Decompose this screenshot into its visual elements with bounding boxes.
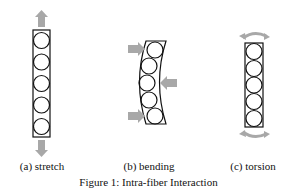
twist-arrow-bottom-icon	[243, 132, 266, 137]
panel-label-stretch: (a) stretch	[20, 160, 64, 172]
panel-torsion	[239, 33, 270, 138]
panel-label-bending: (b) bending	[123, 160, 174, 172]
panel-label-torsion: (c) torsion	[230, 160, 276, 172]
push-arrow-left-icon	[160, 76, 177, 90]
arrow-down-icon	[35, 140, 48, 157]
twist-arrow-top-icon	[243, 33, 266, 38]
figure-caption: Figure 1: Intra-fiber Interaction	[79, 176, 217, 188]
panel-stretch	[33, 10, 50, 157]
arrow-up-icon	[35, 10, 48, 27]
fiber-circles	[246, 44, 262, 127]
fiber-circles	[34, 33, 50, 135]
panel-bending	[128, 41, 177, 124]
